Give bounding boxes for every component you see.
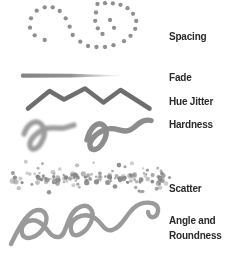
hardness-crisp-stroke <box>87 120 151 149</box>
spacing-stroke <box>28 1 139 49</box>
angle-roundness-stroke <box>11 203 158 244</box>
label-scatter: Scatter <box>169 182 201 194</box>
label-angle-line1: Angle and <box>169 214 216 226</box>
label-hardness: Hardness <box>169 118 213 130</box>
label-spacing: Spacing <box>169 30 206 42</box>
brush-effects-figure: Spacing Fade Hue Jitter Hardness Scatter… <box>0 0 232 256</box>
scatter-stroke <box>10 160 171 195</box>
label-angle-and-roundness: Angle and Roundness <box>169 213 222 243</box>
fade-stroke <box>21 73 120 77</box>
hardness-soft-stroke <box>24 122 74 149</box>
hardness-strokes <box>24 120 151 149</box>
label-angle-line2: Roundness <box>169 229 222 241</box>
label-fade: Fade <box>169 71 192 83</box>
label-hue-jitter: Hue Jitter <box>169 95 213 107</box>
hue-jitter-stroke <box>28 89 150 109</box>
